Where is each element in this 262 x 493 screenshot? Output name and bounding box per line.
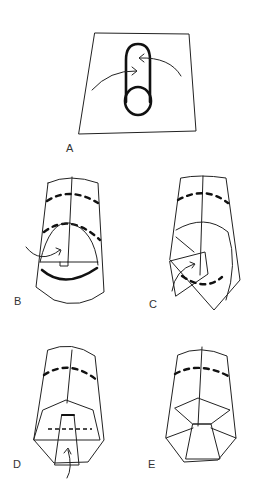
folding-diagram <box>0 0 262 493</box>
fold-up-arrow-icon <box>67 450 70 478</box>
panel-e <box>166 347 236 462</box>
panel-b <box>26 177 104 304</box>
panel-label-d: D <box>13 458 21 470</box>
tube-body <box>126 44 150 102</box>
panel-a <box>79 33 196 134</box>
panel-c <box>170 176 240 310</box>
panel-label-c: C <box>149 298 157 310</box>
arrow-left-icon <box>92 71 136 90</box>
tube-end <box>125 87 151 115</box>
panel-d <box>34 346 104 478</box>
panel-label-a: A <box>66 142 73 154</box>
arrow-right-icon <box>140 58 181 76</box>
paper-sheet <box>79 33 196 134</box>
panel-label-e: E <box>148 458 155 470</box>
panel-label-b: B <box>14 295 21 307</box>
